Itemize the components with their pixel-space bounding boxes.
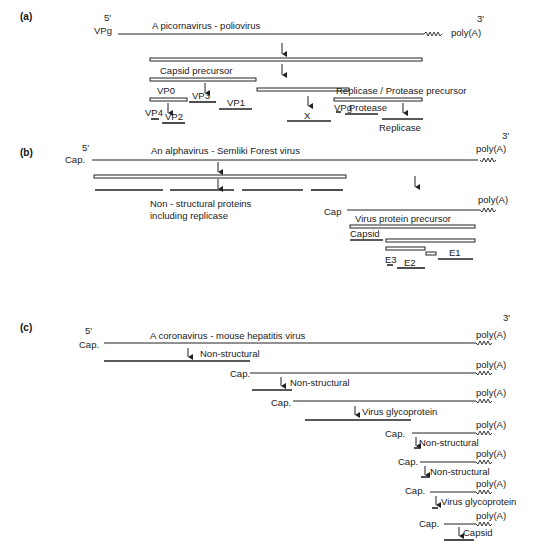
envelope-precursor-bar (386, 239, 475, 242)
poly-a-label: poly(A) (476, 419, 506, 430)
six-k-bar (426, 252, 436, 255)
three-prime-label: 3' (502, 130, 509, 141)
three-prime-label: 3' (503, 312, 510, 323)
poly-a-label: poly(A) (476, 510, 506, 521)
nonstructural-label-line2: including replicase (150, 210, 228, 221)
mrna-2: Cap.poly(A)Non-structural (230, 359, 506, 390)
vp4-label: VP4 (145, 107, 163, 118)
replicase-protease-precursor-label: Replicase / Protease precursor (336, 85, 466, 96)
replicase-label: Replicase (379, 122, 421, 133)
poly-a-tail (476, 341, 492, 345)
panel-b: (b) 5' Cap. An alphavirus - Semliki Fore… (20, 130, 509, 268)
nonstructural-label-line1: Non - structural proteins (150, 198, 252, 209)
replicase-protease-bar (334, 98, 422, 101)
product-label: Non-structural (419, 437, 479, 448)
poly-a-label: poly(A) (476, 387, 506, 398)
vp0-label: VP0 (157, 85, 175, 96)
poly-a-tail (480, 158, 496, 162)
capsid-label: Capsid (350, 228, 380, 239)
mrna-5: Cap.poly(A)Non-structural (398, 448, 506, 477)
vp3-label: VP3 (192, 90, 210, 101)
polyprotein-bar (150, 58, 422, 61)
mrna-3: Cap.poly(A)Virus glycoprotein (271, 387, 506, 420)
poly-a-tail (424, 32, 442, 36)
vp1-label: VP1 (227, 97, 245, 108)
poly-a-tail (476, 460, 492, 464)
e3-label: E3 (385, 254, 397, 265)
product-label: Non-structural (200, 348, 260, 359)
poly-a-tail (476, 490, 492, 494)
cap-label: Cap. (79, 339, 99, 350)
panel-c: (c) 5' 3' A coronavirus - mouse hepatiti… (20, 312, 516, 540)
poly-a-label: poly(A) (476, 143, 506, 154)
vpg-5-end-label: VPg (94, 25, 112, 36)
poly-a-tail (476, 431, 492, 435)
five-prime-label: 5' (104, 12, 111, 23)
cap-label: Cap. (230, 368, 250, 379)
poly-a-label: poly(A) (476, 478, 506, 489)
panel-a: (a) 5' VPg A picornavirus - poliovirus 3… (20, 11, 484, 133)
genome-title: A picornavirus - poliovirus (152, 20, 260, 31)
poly-a-label: poly(A) (476, 448, 506, 459)
virus-protein-precursor-label: Virus protein precursor (355, 213, 451, 224)
e1-label: E1 (449, 247, 461, 258)
cap-label: Cap (324, 206, 341, 217)
product-label: Capsid (463, 527, 493, 538)
three-prime-label: 3' (477, 13, 484, 24)
vp2-label: VP2 (165, 111, 183, 122)
genome-title: An alphavirus - Semliki Forest virus (151, 145, 300, 156)
virus-genome-diagram: (a) 5' VPg A picornavirus - poliovirus 3… (0, 0, 541, 560)
poly-a-label: poly(A) (451, 27, 481, 38)
panel-label-c: (c) (20, 322, 32, 333)
poly-a-tail (476, 399, 492, 403)
poly-a-label: poly(A) (476, 329, 506, 340)
vp0-bar (150, 98, 187, 101)
product-label: Virus glycoprotein (441, 496, 516, 507)
product-label: Virus glycoprotein (362, 406, 437, 417)
mrna-4: Cap.poly(A)Non-structural (385, 419, 506, 448)
p62-bar (386, 247, 425, 250)
nonstructural-polyprotein-bar (94, 175, 346, 178)
cap-5-end-label: Cap. (65, 154, 85, 165)
cap-label: Cap. (419, 518, 439, 529)
cap-label: Cap. (271, 397, 291, 408)
x-label: X (304, 110, 311, 121)
mrna-7: Cap.poly(A)Capsid (419, 510, 506, 540)
capsid-precursor-bar (150, 78, 256, 81)
poly-a-tail (476, 371, 492, 375)
poly-a-tail (476, 522, 492, 526)
panel-label-a: (a) (20, 11, 32, 22)
mrna-6: Cap.poly(A)Virus glycoprotein (405, 478, 516, 508)
genome-title: A coronavirus - mouse hepatitis virus (150, 330, 305, 341)
poly-a-label: poly(A) (478, 194, 508, 205)
poly-a-tail (480, 208, 496, 212)
poly-a-label: poly(A) (476, 359, 506, 370)
protease-label: Protease (349, 102, 387, 113)
panel-label-b: (b) (20, 147, 33, 158)
product-label: Non-structural (430, 466, 490, 477)
capsid-precursor-label: Capsid precursor (160, 65, 232, 76)
e2-label: E2 (404, 257, 416, 268)
cap-label: Cap. (398, 456, 418, 467)
product-label: Non-structural (290, 377, 350, 388)
cap-label: Cap. (385, 428, 405, 439)
cap-label: Cap. (405, 485, 425, 496)
five-prime-label: 5' (82, 142, 89, 153)
five-prime-label: 5' (85, 325, 92, 336)
